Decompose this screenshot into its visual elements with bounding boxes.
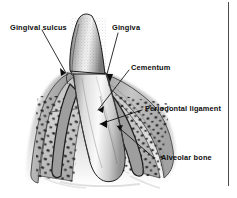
label-gingival-sulcus: Gingival sulcus <box>10 24 67 31</box>
figure-canvas: Gingival sulcus Gingiva Cementum Periodo… <box>0 0 237 198</box>
leader-gingiva <box>107 33 118 74</box>
label-gingiva: Gingiva <box>112 24 140 31</box>
label-alveolar-bone: Alveolar bone <box>161 154 212 161</box>
label-periodontal-ligament: Periodontal ligament <box>145 105 221 112</box>
label-cementum: Cementum <box>131 64 170 71</box>
page-border-line <box>228 2 229 186</box>
enamel-crown <box>70 14 106 74</box>
leader-gingival-sulcus <box>42 30 66 73</box>
